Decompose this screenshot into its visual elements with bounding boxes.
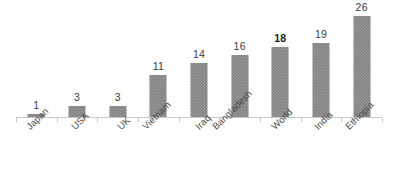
x-axis-tick <box>138 118 139 122</box>
bar-value-label: 19 <box>315 28 327 40</box>
bar-value-label: 18 <box>274 32 286 44</box>
bar-value-label: 3 <box>115 91 121 103</box>
bar-value-label: 14 <box>193 48 205 60</box>
x-axis-tick <box>179 118 180 122</box>
x-axis-category-labels: JapanUSAUKVietnamIraqBangladeshWorldIndi… <box>16 122 382 177</box>
x-axis-tick <box>97 118 98 122</box>
bar-value-label: 11 <box>153 60 164 72</box>
bar-slot: 26 <box>341 8 382 118</box>
x-axis-tick <box>301 118 302 122</box>
bar-value-label: 3 <box>74 91 80 103</box>
x-axis-tick <box>57 118 58 122</box>
bar-slot: 18 <box>260 8 301 118</box>
bar-slot: 3 <box>97 8 138 118</box>
bar-value-label: 16 <box>234 40 246 52</box>
bar-slot: 1 <box>16 8 57 118</box>
bar-chart: 133111416181926 JapanUSAUKVietnamIraqBan… <box>0 0 398 177</box>
x-axis-tick <box>382 118 383 122</box>
bar-slot: 3 <box>57 8 98 118</box>
x-axis-tick <box>219 118 220 122</box>
x-axis-tick <box>16 118 17 122</box>
bar-slot: 19 <box>301 8 342 118</box>
bar-slot: 11 <box>138 8 179 118</box>
bar-slot: 14 <box>179 8 220 118</box>
x-axis-tick <box>341 118 342 122</box>
bar[interactable] <box>190 63 207 118</box>
bar-value-label: 26 <box>356 1 368 13</box>
plot-area: 133111416181926 <box>16 8 382 118</box>
x-axis-tick <box>260 118 261 122</box>
bar[interactable] <box>312 43 329 118</box>
